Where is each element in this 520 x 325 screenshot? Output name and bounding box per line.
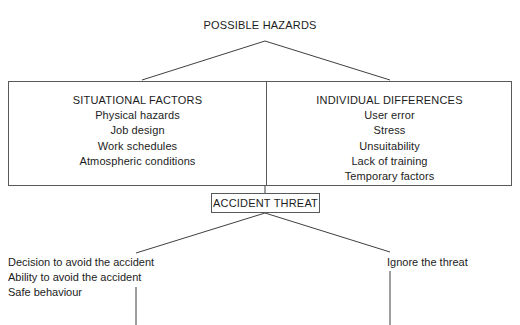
situational-factor-item: Job design — [9, 123, 266, 138]
connector-threat-to-left-outcome — [136, 213, 265, 253]
connector-title-to-individual — [265, 41, 390, 80]
outcome-avoid-accident: Decision to avoid the accident Ability t… — [8, 255, 154, 300]
connector-title-to-situational — [142, 41, 265, 80]
accident-threat-label: ACCIDENT THREAT — [213, 197, 318, 209]
situational-factor-item: Physical hazards — [9, 108, 266, 123]
individual-difference-item: Temporary factors — [267, 169, 512, 184]
situational-factor-item: Work schedules — [9, 139, 266, 154]
outcome-right-line: Ignore the threat — [387, 255, 468, 270]
connector-threat-to-right-outcome — [265, 213, 390, 252]
individual-difference-item: Lack of training — [267, 154, 512, 169]
individual-differences-heading: INDIVIDUAL DIFFERENCES — [267, 93, 512, 108]
situational-factor-item: Atmospheric conditions — [9, 154, 266, 169]
individual-difference-item: Stress — [267, 123, 512, 138]
factors-box: SITUATIONAL FACTORS Physical hazards Job… — [8, 81, 512, 186]
outcome-left-line: Safe behaviour — [8, 285, 154, 300]
outcome-left-line: Ability to avoid the accident — [8, 270, 154, 285]
root-node-label: POSSIBLE HAZARDS — [203, 19, 316, 31]
individual-differences-column: INDIVIDUAL DIFFERENCES User error Stress… — [267, 93, 512, 184]
situational-factors-column: SITUATIONAL FACTORS Physical hazards Job… — [9, 93, 266, 169]
outcome-ignore-threat: Ignore the threat — [387, 255, 468, 270]
hazards-flow-diagram: POSSIBLE HAZARDS SITUATIONAL FACTORS Phy… — [0, 0, 520, 325]
accident-threat-node: ACCIDENT THREAT — [211, 193, 320, 213]
root-node-possible-hazards: POSSIBLE HAZARDS — [0, 18, 520, 33]
individual-difference-item: Unsuitability — [267, 139, 512, 154]
situational-factors-heading: SITUATIONAL FACTORS — [9, 93, 266, 108]
outcome-left-line: Decision to avoid the accident — [8, 255, 154, 270]
individual-difference-item: User error — [267, 108, 512, 123]
